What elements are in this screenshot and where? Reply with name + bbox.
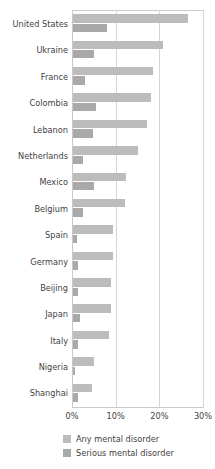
category-label: Colombia <box>0 90 68 116</box>
bar-any <box>73 173 126 182</box>
bar-any <box>73 67 153 76</box>
legend-item[interactable]: Any mental disorder <box>0 432 215 446</box>
category-label: United States <box>0 11 68 37</box>
chart-legend: Any mental disorderSerious mental disord… <box>0 432 215 460</box>
plot-area: United StatesUkraineFranceColombiaLebano… <box>0 0 215 412</box>
bar-serious <box>73 235 77 244</box>
bar-serious <box>73 24 107 33</box>
category-label: Ukraine <box>0 37 68 63</box>
bar-row: Colombia <box>0 90 215 116</box>
bar-any <box>73 357 94 366</box>
bar-row: Lebanon <box>0 117 215 143</box>
bar-any <box>73 225 113 234</box>
bar-any <box>73 199 125 208</box>
x-tick-label: 0% <box>66 411 79 421</box>
x-tick-label: 30% <box>194 411 212 421</box>
bar-row: France <box>0 64 215 90</box>
x-axis-tick-labels: 0%10%20%30% <box>0 411 215 427</box>
category-label: Beijing <box>0 275 68 301</box>
bar-row: Mexico <box>0 169 215 195</box>
category-label: Japan <box>0 301 68 327</box>
category-label: Italy <box>0 328 68 354</box>
legend-item[interactable]: Serious mental disorder <box>0 446 215 460</box>
bar-row: Germany <box>0 249 215 275</box>
bar-any <box>73 304 111 313</box>
bar-serious <box>73 367 75 376</box>
bar-serious <box>73 156 83 165</box>
value-axis-line <box>72 407 203 408</box>
x-tick-label: 10% <box>107 411 125 421</box>
bar-any <box>73 120 147 129</box>
category-label: Shanghai <box>0 380 68 406</box>
legend-swatch-icon <box>63 449 71 457</box>
bar-row: Japan <box>0 301 215 327</box>
bar-serious <box>73 314 80 323</box>
category-label: Belgium <box>0 196 68 222</box>
bar-any <box>73 384 92 393</box>
category-label: Lebanon <box>0 117 68 143</box>
bar-rows: United StatesUkraineFranceColombiaLebano… <box>0 11 215 407</box>
bar-any <box>73 331 109 340</box>
bar-row: Beijing <box>0 275 215 301</box>
bar-serious <box>73 50 94 59</box>
bar-row: Spain <box>0 222 215 248</box>
bar-row: Italy <box>0 328 215 354</box>
bar-any <box>73 252 113 261</box>
bar-any <box>73 41 163 50</box>
x-tick-label: 20% <box>150 411 168 421</box>
bar-row: Belgium <box>0 196 215 222</box>
legend-swatch-icon <box>63 435 71 443</box>
bar-row: Nigeria <box>0 354 215 380</box>
bar-serious <box>73 208 83 217</box>
bar-any <box>73 146 138 155</box>
bar-serious <box>73 129 93 138</box>
bar-row: Shanghai <box>0 380 215 406</box>
bar-serious <box>73 288 78 297</box>
category-label: Germany <box>0 249 68 275</box>
category-label: France <box>0 64 68 90</box>
bar-row: United States <box>0 11 215 37</box>
bar-row: Ukraine <box>0 37 215 63</box>
legend-label: Any mental disorder <box>76 434 159 444</box>
category-label: Spain <box>0 222 68 248</box>
bar-any <box>73 14 188 23</box>
category-label: Nigeria <box>0 354 68 380</box>
legend-label: Serious mental disorder <box>76 448 174 458</box>
bar-serious <box>73 182 94 191</box>
bar-any <box>73 278 111 287</box>
bar-chart: United StatesUkraineFranceColombiaLebano… <box>0 0 215 469</box>
bar-serious <box>73 393 78 402</box>
bar-serious <box>73 103 96 112</box>
bar-serious <box>73 76 85 85</box>
bar-any <box>73 93 151 102</box>
category-label: Netherlands <box>0 143 68 169</box>
bar-serious <box>73 261 78 270</box>
category-label: Mexico <box>0 169 68 195</box>
bar-serious <box>73 340 78 349</box>
bar-row: Netherlands <box>0 143 215 169</box>
